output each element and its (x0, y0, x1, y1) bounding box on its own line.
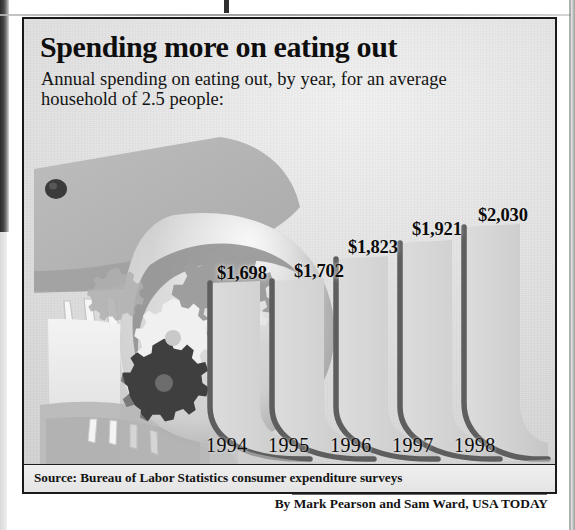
scan-edge-right (571, 0, 575, 530)
page-title: Spending more on eating out (40, 32, 397, 62)
value-label-1997: $1,921 (410, 219, 464, 240)
value-label-1996: $1,823 (346, 237, 400, 258)
scan-top-text-fragment (224, 0, 229, 13)
value-label-1998: $2,030 (476, 205, 530, 226)
source-band: Source: Bureau of Labor Statistics consu… (24, 464, 555, 492)
chart-frame: $1,698 $1,702 $1,823 $1,921 $2,030 1994 … (22, 17, 557, 494)
value-label-1994: $1,698 (215, 263, 269, 284)
year-label-1996: 1996 (330, 434, 372, 457)
source-note: Source: Bureau of Labor Statistics consu… (34, 470, 402, 486)
scan-edge-left-lower (0, 232, 7, 530)
scan-top-rule (0, 14, 575, 16)
infographic-page: $1,698 $1,702 $1,823 $1,921 $2,030 1994 … (0, 0, 575, 530)
bar-1998 (464, 224, 548, 459)
x-axis-year-labels: 1994 1995 1996 1997 1998 (24, 434, 555, 464)
scan-edge-left (0, 0, 9, 232)
year-label-1994: 1994 (206, 434, 248, 457)
year-label-1997: 1997 (392, 434, 434, 457)
scan-edge-right-rule (569, 0, 571, 530)
year-label-1998: 1998 (454, 434, 496, 457)
byline-rule (292, 494, 547, 495)
chart-subtitle: Annual spending on eating out, by year, … (41, 69, 511, 109)
year-label-1995: 1995 (268, 434, 310, 457)
byline-credit: By Mark Pearson and Sam Ward, USA TODAY (0, 496, 548, 512)
value-label-1995: $1,702 (292, 261, 346, 282)
